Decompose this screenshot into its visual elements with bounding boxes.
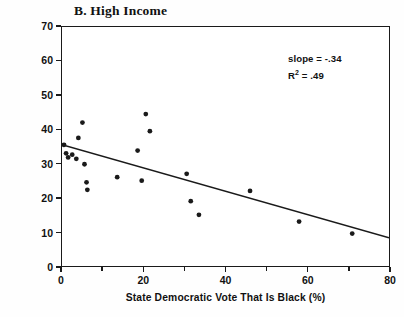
slope-text: slope = -.34 [288,52,342,66]
data-point [197,212,202,217]
data-point [297,219,302,224]
data-point [84,180,89,185]
regression-annotation: slope = -.34 R2 = .49 [288,52,342,83]
x-tick-label: 0 [41,275,81,286]
axis-tick-mark [56,60,61,61]
figure-panel: B. High Income High Income Whites Voting… [0,0,404,317]
data-point [70,152,75,157]
x-axis-label: State Democratic Vote That Is Black (%) [61,292,390,303]
axis-tick-mark [225,267,226,272]
y-tick-label: 30 [41,159,53,170]
r-squared-prefix: R [288,70,295,81]
data-point [66,155,71,160]
data-point [188,199,193,204]
data-point [135,148,140,153]
y-tick-label: 20 [41,193,53,204]
y-tick-label: 10 [41,228,53,239]
y-tick-label: 0 [47,262,53,273]
axis-tick-mark [184,267,185,271]
axis-tick-mark [56,94,61,95]
r-squared-value: = .49 [299,70,324,81]
data-point [139,178,144,183]
data-point [74,156,79,161]
axis-tick-mark [143,267,144,272]
axis-tick-mark [56,232,61,233]
axis-tick-mark [266,267,267,271]
axis-tick-mark [56,197,61,198]
x-tick-label: 40 [206,275,246,286]
data-point [184,171,189,176]
data-point [248,189,253,194]
axis-tick-mark [389,267,390,272]
axis-tick-mark [60,267,61,272]
data-point [143,112,148,117]
data-point [80,120,85,125]
data-point [64,151,69,156]
y-tick-label: 70 [41,21,53,32]
y-tick-label: 50 [41,90,53,101]
data-point [85,187,90,192]
axis-tick-mark [56,129,61,130]
data-point [350,231,355,236]
data-point [76,136,81,141]
regression-line [62,145,389,238]
axis-tick-mark [307,267,308,272]
data-point [82,162,87,167]
page-title: B. High Income [74,3,167,19]
y-tick-label: 60 [41,55,53,66]
x-tick-label: 60 [288,275,328,286]
axis-tick-mark [348,267,349,271]
data-point [147,129,152,134]
axis-tick-mark [56,25,61,26]
axis-tick-mark [56,163,61,164]
axis-tick-mark [101,267,102,271]
r-squared-text: R2 = .49 [288,66,342,83]
x-tick-label: 80 [370,275,404,286]
data-point [115,175,120,180]
x-tick-label: 20 [123,275,163,286]
y-tick-label: 40 [41,124,53,135]
